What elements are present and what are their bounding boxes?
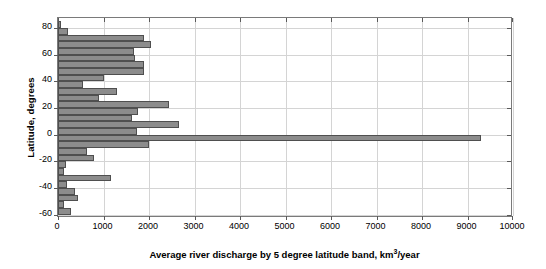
y-gridline bbox=[58, 81, 511, 82]
x-gridline bbox=[240, 18, 241, 216]
y-axis-tick-right bbox=[507, 215, 511, 216]
x-axis-tick-label: 4000 bbox=[216, 221, 262, 231]
x-axis-tick bbox=[422, 216, 423, 220]
bar bbox=[58, 188, 75, 195]
bar bbox=[58, 81, 83, 88]
x-axis-tick bbox=[468, 216, 469, 220]
bar bbox=[58, 75, 104, 82]
x-gridline bbox=[331, 18, 332, 216]
y-axis-tick-right bbox=[507, 108, 511, 109]
y-gridline bbox=[58, 215, 511, 216]
bar bbox=[58, 28, 68, 35]
x-axis-tick-top bbox=[286, 18, 287, 22]
bar bbox=[58, 195, 78, 202]
bar bbox=[58, 88, 117, 95]
x-axis-tick bbox=[512, 216, 513, 220]
y-axis-tick bbox=[54, 188, 58, 189]
x-axis-title-text: Average river discharge by 5 degree lati… bbox=[149, 249, 419, 260]
x-axis-tick-label: 10000 bbox=[489, 221, 535, 231]
bar bbox=[58, 161, 66, 168]
bar bbox=[58, 201, 64, 208]
y-axis-tick-right bbox=[507, 81, 511, 82]
y-axis-title: Latitude, degrees bbox=[25, 38, 36, 198]
bar bbox=[58, 68, 144, 75]
x-axis-tick-label: 1000 bbox=[80, 221, 126, 231]
y-axis-tick-label: -60 bbox=[26, 208, 52, 218]
x-axis-tick bbox=[149, 216, 150, 220]
x-axis-tick-label: 2000 bbox=[125, 221, 171, 231]
x-axis-tick-label: 9000 bbox=[444, 221, 490, 231]
x-axis-tick-top bbox=[468, 18, 469, 22]
bar bbox=[58, 208, 71, 215]
bar bbox=[58, 168, 64, 175]
x-axis-tick-top bbox=[331, 18, 332, 22]
x-axis-tick-top bbox=[240, 18, 241, 22]
plot-area bbox=[57, 17, 512, 217]
y-axis-tick-label: 20 bbox=[26, 101, 52, 111]
y-axis-tick-label: -20 bbox=[26, 154, 52, 164]
x-axis-tick-label: 3000 bbox=[171, 221, 217, 231]
bar bbox=[58, 115, 132, 122]
bar bbox=[58, 108, 138, 115]
bar bbox=[58, 175, 111, 182]
x-axis-tick-label: 6000 bbox=[307, 221, 353, 231]
bar bbox=[58, 35, 144, 42]
bar bbox=[58, 121, 179, 128]
x-axis-tick-top bbox=[512, 18, 513, 22]
x-axis-tick bbox=[331, 216, 332, 220]
y-axis-tick bbox=[54, 108, 58, 109]
y-gridline bbox=[58, 28, 511, 29]
x-axis-tick bbox=[104, 216, 105, 220]
chart-figure: Latitude, degrees Average river discharg… bbox=[0, 0, 546, 269]
x-axis-tick bbox=[58, 216, 59, 220]
y-axis-tick bbox=[54, 161, 58, 162]
x-gridline bbox=[422, 18, 423, 216]
x-axis-tick bbox=[286, 216, 287, 220]
y-axis-tick-label: 40 bbox=[26, 74, 52, 84]
x-axis-tick-top bbox=[58, 18, 59, 22]
x-axis-title: Average river discharge by 5 degree lati… bbox=[57, 248, 512, 260]
bar bbox=[58, 148, 87, 155]
x-axis-tick-top bbox=[104, 18, 105, 22]
y-axis-tick-label: -40 bbox=[26, 181, 52, 191]
y-axis-tick bbox=[54, 135, 58, 136]
bar bbox=[58, 135, 481, 142]
y-axis-tick bbox=[54, 28, 58, 29]
x-gridline bbox=[195, 18, 196, 216]
y-axis-tick-label: 60 bbox=[26, 48, 52, 58]
bar bbox=[58, 141, 149, 148]
x-axis-tick-top bbox=[195, 18, 196, 22]
x-gridline bbox=[513, 18, 514, 216]
y-axis-tick-right bbox=[507, 135, 511, 136]
bar bbox=[58, 41, 151, 48]
y-axis-tick bbox=[54, 81, 58, 82]
x-gridline bbox=[468, 18, 469, 216]
y-axis-tick-label: 80 bbox=[26, 21, 52, 31]
bar bbox=[58, 155, 94, 162]
y-axis-tick bbox=[54, 55, 58, 56]
x-axis-tick bbox=[377, 216, 378, 220]
y-axis-tick-right bbox=[507, 28, 511, 29]
bar bbox=[58, 21, 61, 28]
bar bbox=[58, 101, 169, 108]
y-axis-tick-label: 0 bbox=[26, 128, 52, 138]
bar bbox=[58, 48, 134, 55]
bar bbox=[58, 55, 135, 62]
x-axis-tick-top bbox=[149, 18, 150, 22]
x-axis-tick bbox=[195, 216, 196, 220]
bar bbox=[58, 181, 67, 188]
y-gridline bbox=[58, 188, 511, 189]
x-gridline bbox=[377, 18, 378, 216]
x-axis-tick-label: 8000 bbox=[398, 221, 444, 231]
y-axis-tick-right bbox=[507, 161, 511, 162]
y-axis-tick-right bbox=[507, 188, 511, 189]
x-axis-tick bbox=[240, 216, 241, 220]
x-axis-tick-label: 5000 bbox=[262, 221, 308, 231]
x-axis-tick-top bbox=[377, 18, 378, 22]
bar bbox=[58, 95, 99, 102]
y-axis-tick-right bbox=[507, 55, 511, 56]
x-axis-tick-label: 7000 bbox=[353, 221, 399, 231]
x-axis-tick-top bbox=[422, 18, 423, 22]
y-gridline bbox=[58, 161, 511, 162]
bar bbox=[58, 128, 137, 135]
